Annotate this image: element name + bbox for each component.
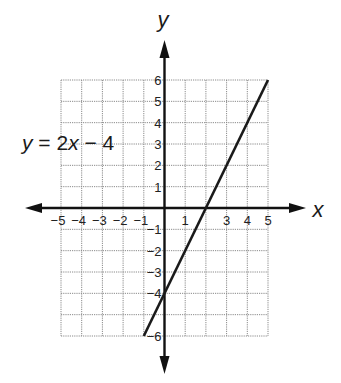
x-tick-label: −4	[71, 213, 86, 228]
x-tick-label: 5	[264, 213, 271, 228]
y-tick-label: 1	[154, 180, 161, 195]
y-tick-label: 3	[154, 137, 161, 152]
y-tick-label: −2	[147, 244, 162, 259]
x-tick-label: −3	[92, 213, 107, 228]
x-axis-right-arrow-icon	[289, 203, 306, 213]
y-tick-label: 2	[154, 158, 161, 173]
y-axis-up-arrow-icon	[160, 40, 170, 58]
y-tick-label: −6	[147, 329, 162, 344]
x-tick-label: 3	[223, 213, 230, 228]
y-tick-label: 6	[154, 73, 161, 88]
y-tick-label: 5	[154, 94, 161, 109]
x-tick-label: 4	[244, 213, 251, 228]
x-axis-label: x	[312, 197, 325, 222]
x-tick-label: −2	[113, 213, 128, 228]
coordinate-plane: −5−4−3−2−11345654321−1−2−3−4−6 x y y = 2…	[0, 0, 341, 383]
x-axis-left-arrow-icon	[25, 203, 42, 213]
y-tick-label: 4	[154, 116, 161, 131]
y-axis-label: y	[156, 7, 171, 32]
y-tick-label: −1	[147, 222, 162, 237]
x-tick-label: 1	[182, 213, 189, 228]
equation-tail: − 4	[79, 131, 115, 154]
y-axis-down-arrow-icon	[160, 356, 170, 374]
y-tick-label: −4	[147, 286, 162, 301]
equation-label: y = 2x − 4	[20, 131, 115, 154]
equation-middle: = 2	[33, 131, 69, 154]
x-tick-label: −5	[51, 213, 66, 228]
y-tick-label: −3	[147, 265, 162, 280]
